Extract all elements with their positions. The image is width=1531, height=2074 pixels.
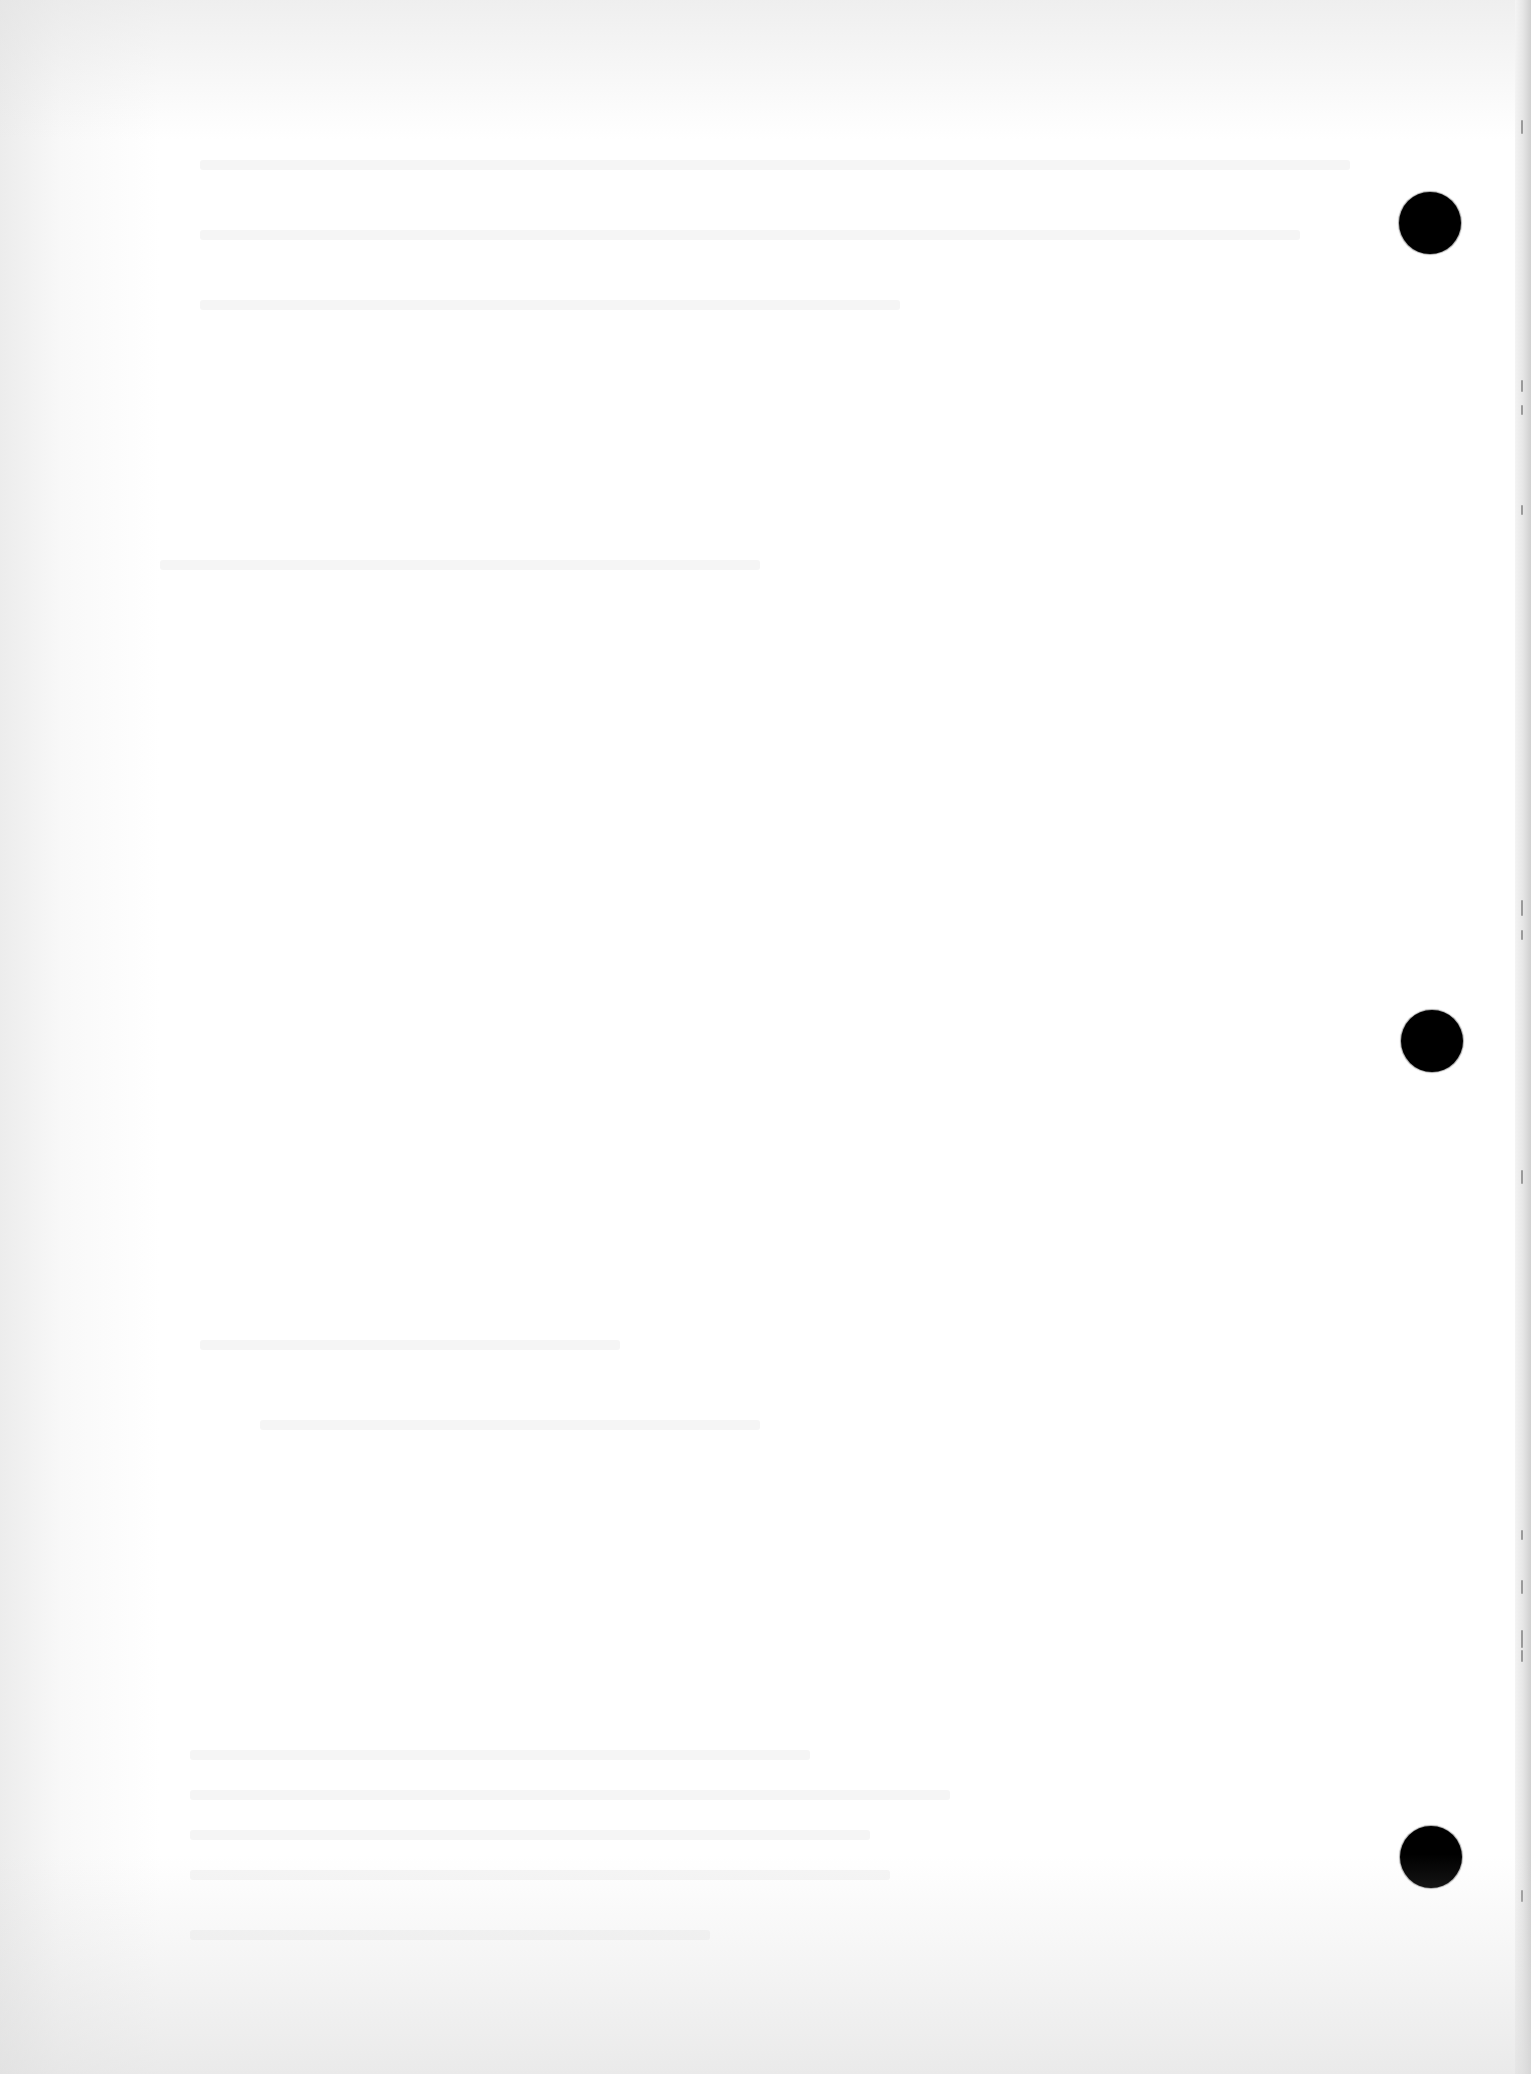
edge-mark (1521, 1890, 1523, 1902)
edge-mark (1521, 1580, 1523, 1594)
bleed-through-line (160, 560, 760, 570)
edge-mark (1521, 1530, 1523, 1540)
punch-hole-top (1399, 192, 1461, 254)
edge-mark (1521, 380, 1523, 392)
bleed-through-line (200, 230, 1300, 240)
bleed-through-line (190, 1790, 950, 1800)
edge-mark (1521, 930, 1523, 940)
scanned-page (0, 0, 1531, 2074)
punch-hole-middle (1401, 1010, 1463, 1072)
bleed-through-line (190, 1930, 710, 1940)
bleed-through-line (190, 1750, 810, 1760)
bleed-through-line (200, 160, 1350, 170)
bleed-through-line (190, 1870, 890, 1880)
bleed-through-line (200, 1340, 620, 1350)
edge-mark (1521, 405, 1523, 415)
edge-mark (1521, 505, 1523, 515)
edge-mark (1521, 1630, 1523, 1648)
edge-mark (1521, 1650, 1523, 1662)
bleed-through-line (190, 1830, 870, 1840)
edge-marks (1521, 0, 1527, 2074)
edge-mark (1521, 120, 1523, 134)
edge-mark (1521, 900, 1523, 916)
punch-hole-bottom (1400, 1826, 1462, 1888)
edge-mark (1521, 1170, 1523, 1184)
bleed-through-line (260, 1420, 760, 1430)
bleed-through-line (200, 300, 900, 310)
